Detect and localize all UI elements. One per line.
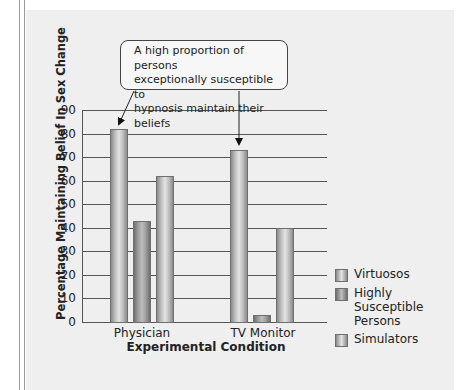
legend-item-virtuosos: Virtuosos: [335, 267, 454, 282]
legend-item-simulators: Simulators: [335, 332, 454, 347]
legend-swatch-icon: [335, 334, 348, 347]
arrow-to-physician-virtuosos: [119, 91, 134, 124]
legend-swatch-icon: [335, 288, 348, 301]
legend-item-highly-susceptible: Highly Susceptible Persons: [335, 286, 454, 328]
bar-chart: Percentage Maintaining Belief In Sex Cha…: [0, 0, 471, 390]
legend-swatch-icon: [335, 269, 348, 282]
callout-line-1: A high proportion of persons: [134, 44, 283, 73]
callout-line-3: hypnosis maintain their beliefs: [134, 102, 283, 131]
annotation-callout: A high proportion of persons exceptional…: [120, 40, 288, 90]
legend: Virtuosos Highly Susceptible Persons Sim…: [335, 267, 454, 351]
callout-line-2: exceptionally susceptible to: [134, 73, 283, 102]
